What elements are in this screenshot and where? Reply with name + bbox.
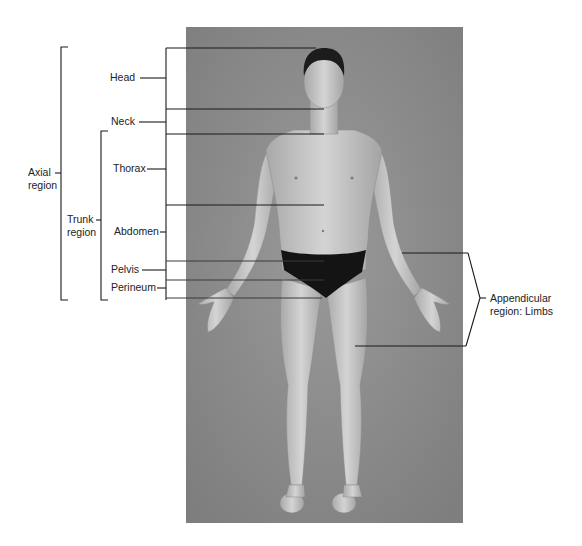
label-thorax: Thorax [113,162,146,175]
label-appendicular-region: Appendicular region: Limbs [490,292,553,317]
appendicular-bracket [466,253,480,346]
label-pelvis: Pelvis [111,263,139,276]
label-trunk-line2: region [67,226,96,239]
label-perineum: Perineum [111,281,156,294]
label-appendicular-line2: region: Limbs [490,305,553,318]
axial-bracket [61,47,68,300]
label-trunk-line1: Trunk [67,213,96,226]
label-axial-line1: Axial [28,166,57,179]
photo-and-leader-lines [0,0,582,546]
label-axial-line2: region [28,179,57,192]
label-trunk-region: Trunk region [67,213,96,238]
body-regions-diagram: Head Neck Thorax Abdomen Pelvis Perineum… [0,0,582,546]
label-appendicular-line1: Appendicular [490,292,553,305]
label-head: Head [110,71,135,84]
label-neck: Neck [111,115,135,128]
trunk-bracket [101,131,108,300]
label-axial-region: Axial region [28,166,57,191]
label-abdomen: Abdomen [114,225,159,238]
